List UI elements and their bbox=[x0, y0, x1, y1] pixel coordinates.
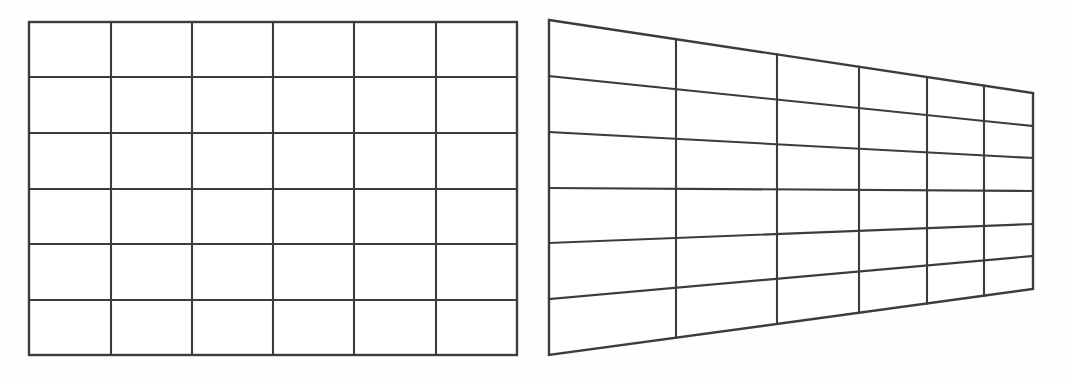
figure-root bbox=[0, 0, 1067, 381]
frontal-grid bbox=[29, 22, 517, 355]
figure-canvas bbox=[0, 0, 1067, 381]
